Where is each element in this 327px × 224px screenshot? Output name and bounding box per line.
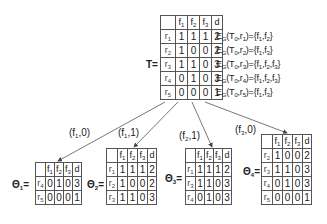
edge-label-f2-1: (f2,1) [179,130,200,141]
row-label: r2 [107,177,118,191]
cell: 1 [118,191,128,205]
cell: 0 [200,86,212,100]
theta1-label: Θ1= [12,179,29,190]
cell: 2 [223,163,232,177]
cell: 0 [283,191,293,205]
cell: 0 [176,86,188,100]
eg-annotation-r5: EG(T0,r5)={f1,f3} [216,87,272,97]
row-label: r4 [262,177,273,191]
theta3-table: f1 f2 f3 d r1 1 1 1 2 r3 1 1 0 3 r4 0 1 … [185,148,232,205]
cell: 0 [176,72,188,86]
cell: 1 [138,163,148,177]
header-f1: f1 [273,135,283,149]
edge-arrow-2 [134,102,178,147]
cell: 0 [64,191,73,205]
header-f2: f2 [128,149,138,163]
cell: 0 [55,191,64,205]
header-f1: f1 [46,163,55,177]
cell: 3 [73,177,82,191]
header-d: d [148,149,157,163]
cell: 1 [205,191,214,205]
cell: 1 [73,191,82,205]
cell: 0 [138,191,148,205]
theta1-table: f1 f2 f3 d r4 0 1 0 3 r5 0 0 0 1 [35,162,82,205]
cell: 0 [200,72,212,86]
cell: 1 [273,149,283,163]
cell: 0 [188,44,200,58]
theta2-label: Θ2= [87,179,104,190]
header-f3: f3 [64,163,73,177]
header-d: d [73,163,82,177]
header-f2: f2 [55,163,64,177]
row-label: r5 [262,191,273,205]
cell: 1 [118,163,128,177]
row-label: r1 [161,30,176,44]
cell: 0 [200,44,212,58]
cell: 1 [200,30,212,44]
cell: 1 [176,30,188,44]
row-label: r5 [36,191,46,205]
header-d: d [223,149,232,163]
cell: 3 [148,191,157,205]
header-f3: f3 [200,16,212,30]
edge-label-f1-0: (f1,0) [69,127,90,138]
cell: 1 [188,72,200,86]
cell: 1 [303,191,312,205]
cell: 1 [176,58,188,72]
cell: 1 [273,163,283,177]
edge-label-f3-0: (f3,0) [235,124,256,135]
cell: 1 [196,163,205,177]
cell: 1 [196,177,205,191]
row-label: r4 [186,191,196,205]
header-f2: f2 [188,16,200,30]
header-d: d [212,16,223,30]
theta2-table: f1 f2 f3 d r1 1 1 1 2 r2 1 0 0 2 r3 1 1 … [106,148,157,205]
cell: 1 [214,163,223,177]
row-label: r3 [262,163,273,177]
header-f3: f3 [293,135,303,149]
cell: 3 [303,177,312,191]
eg-annotation-r1: EG(T0,r1)={f1,f2} [216,31,272,41]
cell: 0 [138,177,148,191]
top-table: f1 f2 f3 d r1 1 1 1 2 r2 1 0 0 2 r3 1 1 … [160,15,223,100]
cell: 0 [214,177,223,191]
eg-annotation-r3: EG(T0,r3)={f1,f2,f3} [216,59,280,69]
cell: 2 [148,163,157,177]
cell: 0 [293,149,303,163]
cell: 0 [273,177,283,191]
cell: 0 [200,58,212,72]
cell: 0 [293,177,303,191]
header-f3: f3 [138,149,148,163]
row-label: r4 [161,72,176,86]
edge-label-f1-1: (f1,1) [118,127,139,138]
header-corner [186,149,196,163]
cell: 1 [176,44,188,58]
cell: 0 [46,191,55,205]
header-f1: f1 [176,16,188,30]
eg-annotation-r4: EG(T0,r4)={f1,f2,f3} [216,73,280,83]
cell: 1 [128,191,138,205]
header-f2: f2 [283,135,293,149]
cell: 0 [196,191,205,205]
cell: 2 [303,149,312,163]
theta4-label: Θ4= [243,166,260,177]
row-label: r2 [161,44,176,58]
top-table-label: T= [146,59,158,70]
cell: 0 [46,177,55,191]
header-f1: f1 [118,149,128,163]
header-f1: f1 [196,149,205,163]
cell: 0 [293,191,303,205]
theta4-table: f1 f2 f3 d r2 1 0 0 2 r3 1 1 0 3 r4 0 1 … [261,134,312,205]
cell: 1 [205,177,214,191]
cell: 0 [64,177,73,191]
header-corner [161,16,176,30]
cell: 1 [283,177,293,191]
cell: 0 [128,177,138,191]
cell: 1 [205,163,214,177]
row-label: r1 [107,163,118,177]
cell: 1 [188,30,200,44]
cell: 1 [55,177,64,191]
cell: 1 [128,163,138,177]
header-d: d [303,135,312,149]
cell: 1 [118,177,128,191]
